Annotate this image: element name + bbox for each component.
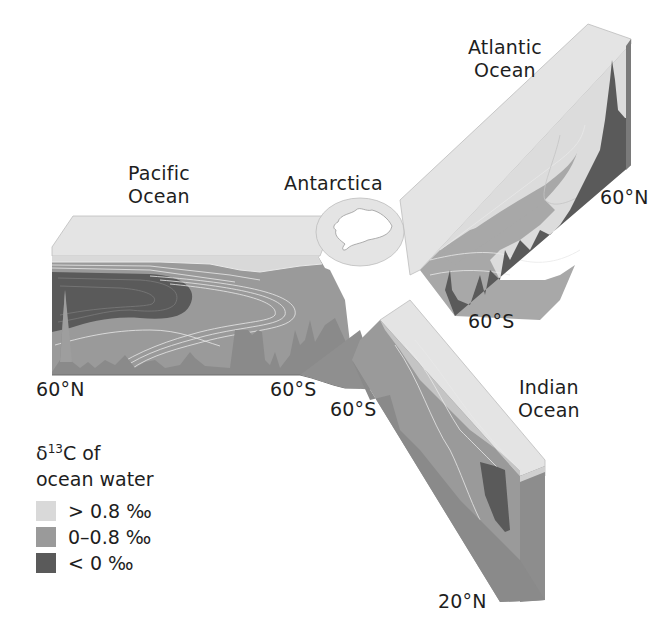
- atlantic-end-face: [626, 39, 631, 170]
- legend-item-low: < 0 ‰: [36, 550, 154, 576]
- atlantic-label: Atlantic Ocean: [468, 36, 542, 82]
- pacific-label: Pacific Ocean: [128, 162, 190, 208]
- indian-section: [352, 300, 545, 602]
- atlantic-label-line2: Ocean: [468, 59, 542, 82]
- legend-item-high: > 0.8 ‰: [36, 498, 154, 524]
- indian-label-line1: Indian: [518, 376, 580, 399]
- indian-label-line2: Ocean: [518, 399, 580, 422]
- legend-swatch-light: [36, 501, 56, 521]
- legend-label-low: < 0 ‰: [68, 552, 134, 574]
- pacific-south-lat-label: 60°S: [270, 378, 317, 401]
- legend-title-line2: ocean water: [36, 466, 154, 492]
- legend-title-rest: C of: [63, 442, 101, 464]
- legend-swatch-medium: [36, 527, 56, 547]
- pacific-top-surface: [52, 216, 330, 256]
- antarctica-hub: [316, 198, 404, 266]
- indian-label: Indian Ocean: [518, 376, 580, 422]
- legend-item-mid: 0–0.8 ‰: [36, 524, 154, 550]
- legend-title-delta: δ: [36, 442, 48, 464]
- indian-south-lat-label: 60°S: [330, 398, 377, 421]
- atlantic-north-lat-label: 60°N: [600, 186, 649, 209]
- pacific-label-line2: Ocean: [128, 185, 190, 208]
- pacific-label-line1: Pacific: [128, 162, 190, 185]
- antarctica-label: Antarctica: [284, 172, 383, 195]
- pacific-north-lat-label: 60°N: [36, 378, 85, 401]
- legend: δ13C of ocean water > 0.8 ‰ 0–0.8 ‰ < 0 …: [36, 436, 154, 576]
- indian-north-lat-label: 20°N: [438, 590, 487, 613]
- legend-title: δ13C of: [36, 436, 154, 466]
- atlantic-label-line1: Atlantic: [468, 36, 542, 59]
- legend-title-superscript: 13: [48, 442, 63, 456]
- legend-label-high: > 0.8 ‰: [68, 500, 152, 522]
- legend-label-mid: 0–0.8 ‰: [68, 526, 151, 548]
- legend-swatch-dark: [36, 553, 56, 573]
- atlantic-south-lat-label: 60°S: [468, 310, 515, 333]
